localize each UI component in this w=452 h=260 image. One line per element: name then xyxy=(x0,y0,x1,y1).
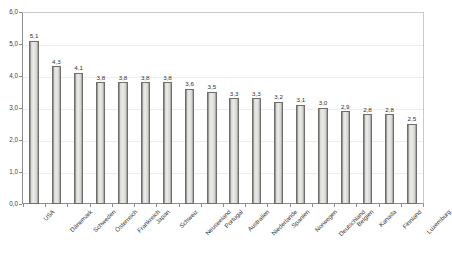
bar-value-label: 3,8 xyxy=(111,75,134,81)
x-axis-tick-mark xyxy=(134,204,135,207)
x-axis-tick-mark xyxy=(245,204,246,207)
bar-slot: 2,8 xyxy=(379,12,401,204)
bar-value-label: 2,9 xyxy=(334,104,357,110)
x-axis-tick-mark xyxy=(156,204,157,207)
y-axis-tick-mark xyxy=(19,76,22,77)
bar-value-label: 2,8 xyxy=(378,107,401,113)
bar-value-label: 3,8 xyxy=(134,75,157,81)
bar-value-label: 2,8 xyxy=(356,107,379,113)
bar[interactable] xyxy=(252,98,261,204)
bar[interactable] xyxy=(363,114,372,204)
x-axis-tick-mark xyxy=(179,204,180,207)
y-axis-tick-mark xyxy=(19,204,22,205)
bar-slot: 4,1 xyxy=(67,12,89,204)
x-axis-tick-mark xyxy=(312,204,313,207)
bar-value-label: 3,5 xyxy=(200,84,223,90)
y-axis-tick-label: 2,0 xyxy=(0,137,18,143)
bar-value-label: 3,6 xyxy=(178,81,201,87)
bar-value-label: 2,5 xyxy=(400,116,423,122)
bar-value-label: 4,3 xyxy=(45,59,68,65)
bar-slot: 3,0 xyxy=(312,12,334,204)
bar[interactable] xyxy=(407,124,416,204)
y-axis-tick-mark xyxy=(19,12,22,13)
bar-slot: 5,1 xyxy=(23,12,45,204)
x-axis-category-label: Norwegen xyxy=(313,208,338,233)
x-axis-labels: USADänemarkSchwedenÖsterreichFrankreichJ… xyxy=(23,208,423,260)
x-axis-tick-mark xyxy=(90,204,91,207)
bar-value-label: 3,3 xyxy=(245,91,268,97)
bar-value-label: 3,2 xyxy=(267,94,290,100)
bar-value-label: 3,0 xyxy=(311,100,334,106)
x-axis-tick-mark xyxy=(267,204,268,207)
bar[interactable] xyxy=(52,66,61,204)
y-axis-tick-label: 0,0 xyxy=(0,201,18,207)
bar-value-label: 3,3 xyxy=(222,91,245,97)
bar-slot: 3,2 xyxy=(267,12,289,204)
bar-value-label: 5,1 xyxy=(22,33,45,39)
x-axis-tick-mark xyxy=(67,204,68,207)
x-axis-tick-mark xyxy=(356,204,357,207)
bar[interactable] xyxy=(229,98,238,204)
y-axis-tick-mark xyxy=(19,44,22,45)
bar-slot: 3,1 xyxy=(290,12,312,204)
bars-container: 5,14,34,13,83,83,83,83,63,53,33,33,23,13… xyxy=(23,12,423,204)
y-axis-tick-label: 5,0 xyxy=(0,41,18,47)
x-axis-category-label: Finnland xyxy=(401,208,423,230)
bar-slot: 3,8 xyxy=(90,12,112,204)
bar-slot: 3,8 xyxy=(156,12,178,204)
x-axis-category-label: Schweden xyxy=(91,208,116,233)
bar[interactable] xyxy=(207,92,216,204)
bar-value-label: 4,1 xyxy=(67,65,90,71)
y-axis-tick-label: 6,0 xyxy=(0,9,18,15)
bar-slot: 3,8 xyxy=(112,12,134,204)
x-axis-tick-mark xyxy=(45,204,46,207)
bar[interactable] xyxy=(318,108,327,204)
bar[interactable] xyxy=(296,105,305,204)
bar[interactable] xyxy=(74,73,83,204)
y-axis-tick-label: 1,0 xyxy=(0,169,18,175)
bar[interactable] xyxy=(341,111,350,204)
y-axis-tick-label: 4,0 xyxy=(0,73,18,79)
bar-slot: 2,5 xyxy=(401,12,423,204)
bar-value-label: 3,8 xyxy=(89,75,112,81)
bar[interactable] xyxy=(29,41,38,204)
bar-slot: 3,3 xyxy=(245,12,267,204)
bar-slot: 2,9 xyxy=(334,12,356,204)
bar[interactable] xyxy=(163,82,172,204)
x-axis-tick-mark xyxy=(112,204,113,207)
bar[interactable] xyxy=(96,82,105,204)
x-axis-category-label: Österreich xyxy=(113,208,138,233)
bar-value-label: 3,8 xyxy=(156,75,179,81)
bar[interactable] xyxy=(274,102,283,204)
x-axis-tick-mark xyxy=(334,204,335,207)
bar[interactable] xyxy=(141,82,150,204)
x-axis-category-label: Dänemark xyxy=(69,208,94,233)
x-axis-category-label: Schweiz xyxy=(178,208,199,229)
x-axis-tick-mark xyxy=(223,204,224,207)
x-axis-category-label: Luxemburg xyxy=(425,208,452,235)
y-axis-tick-mark xyxy=(19,108,22,109)
x-axis-tick-mark xyxy=(23,204,24,207)
x-axis-category-label: Kanada xyxy=(378,208,398,228)
bar-slot: 3,8 xyxy=(134,12,156,204)
bar[interactable] xyxy=(185,89,194,204)
bar-value-label: 3,1 xyxy=(289,97,312,103)
bar-slot: 3,6 xyxy=(179,12,201,204)
x-axis-category-label: Australien xyxy=(246,208,270,232)
x-axis-tick-mark xyxy=(290,204,291,207)
y-axis-tick-mark xyxy=(19,172,22,173)
x-axis-tick-mark xyxy=(201,204,202,207)
y-axis-tick-label: 3,0 xyxy=(0,105,18,111)
bar-slot: 4,3 xyxy=(45,12,67,204)
bar[interactable] xyxy=(385,114,394,204)
x-axis-category-label: USA xyxy=(42,208,56,222)
x-axis-tick-mark xyxy=(423,204,424,207)
bar-slot: 3,5 xyxy=(201,12,223,204)
x-axis-tick-mark xyxy=(401,204,402,207)
bar-slot: 3,3 xyxy=(223,12,245,204)
y-axis-tick-mark xyxy=(19,140,22,141)
bar-slot: 2,8 xyxy=(356,12,378,204)
x-axis-tick-mark xyxy=(379,204,380,207)
bar[interactable] xyxy=(118,82,127,204)
